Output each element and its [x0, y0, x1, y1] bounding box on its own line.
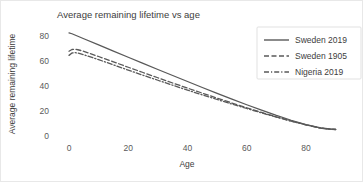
chart-figure: Average remaining lifetime vs age Averag…	[0, 0, 363, 182]
x-tick-label: 80	[301, 143, 311, 153]
legend-label-nigeria-2019: Nigeria 2019	[295, 67, 343, 77]
x-tick-label: 0	[67, 143, 72, 153]
y-tick-label: 0	[44, 131, 49, 141]
legend-label-sweden-2019: Sweden 2019	[295, 35, 347, 45]
x-tick-label: 20	[124, 143, 134, 153]
y-axis-title: Average remaining lifetime	[7, 33, 17, 134]
y-tick-labels: 020406080	[40, 31, 50, 141]
y-tick-label: 80	[40, 31, 50, 41]
x-axis-title: Age	[179, 159, 194, 169]
chart-legend: Sweden 2019Sweden 1905Nigeria 2019	[257, 27, 361, 79]
x-tick-labels: 020406080	[67, 143, 311, 153]
x-tick-label: 60	[242, 143, 252, 153]
chart-canvas: Average remaining lifetime vs age Averag…	[1, 1, 363, 182]
y-tick-label: 20	[40, 106, 50, 116]
legend-label-sweden-1905: Sweden 1905	[295, 51, 347, 61]
x-tick-label: 40	[183, 143, 193, 153]
y-tick-label: 60	[40, 56, 50, 66]
chart-title: Average remaining lifetime vs age	[57, 9, 200, 20]
y-tick-label: 40	[40, 81, 50, 91]
